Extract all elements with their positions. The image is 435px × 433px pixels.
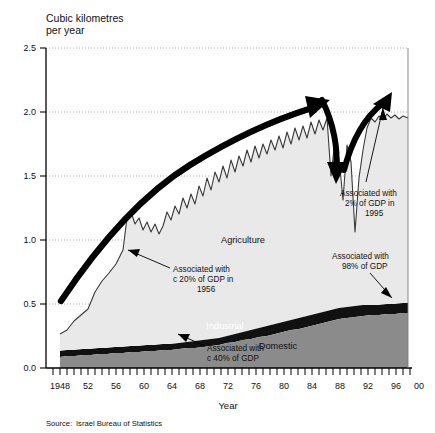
y-tick-label-2-0: 2.0 [23,107,36,117]
y-tick-label-1-5: 1.5 [23,171,36,181]
x-tick-label-52: 52 [83,381,93,391]
chart-title-line1: Cubic kilometres [46,12,124,24]
x-tick-label-84: 84 [307,381,317,391]
annotation-gdp-2-line2: 2% of GDP in [345,199,395,208]
x-tick-label-68: 68 [195,381,205,391]
x-tick-label-80: 80 [279,381,289,391]
source-value: Israel Bureau of Statistics [76,419,162,428]
x-tick-label-1948: 1948 [50,381,70,391]
x-tick-label-00: 00 [414,381,424,391]
series-label-domestic: Domestic [259,341,298,351]
x-tick-label-60: 60 [139,381,149,391]
y-tick-label-2-5: 2.5 [23,43,36,53]
annotation-gdp-20-line2: c 20% of GDP in [173,275,234,284]
annotation-gdp-20-line3: 1956 [197,285,216,294]
x-tick-label-88: 88 [335,381,345,391]
y-tick-label-0-0: 0.0 [23,363,36,373]
series-label-agriculture: Agriculture [221,235,265,245]
source-label: Source: [46,419,72,428]
annotation-gdp-98-line1: Associated with [332,252,389,261]
water-use-chart: Cubic kilometres per year 2.5 2.0 1.5 1. [0,0,435,433]
annotation-gdp-20-line1: Associated with [173,265,230,274]
annotation-gdp-98-line2: 98% of GDP [342,262,388,271]
x-tick-label-76: 76 [251,381,261,391]
annotation-gdp-2-line3: 1995 [365,209,384,218]
x-tick-label-96: 96 [391,381,401,391]
y-tick-label-0-5: 0.5 [23,299,36,309]
x-tick-label-92: 92 [363,381,373,391]
x-axis-title: Year [218,400,237,411]
annotation-gdp-40-line1: Associated with [207,344,264,353]
x-tick-label-56: 56 [111,381,121,391]
annotation-gdp-2-line1: Associated with [340,189,397,198]
y-tick-label-1-0: 1.0 [23,235,36,245]
x-tick-label-72: 72 [223,381,233,391]
series-label-industrial: Industrial [206,321,243,331]
chart-svg: Cubic kilometres per year 2.5 2.0 1.5 1. [0,0,435,433]
x-tick-label-64: 64 [167,381,177,391]
chart-title-line2: per year [46,24,85,36]
annotation-gdp-40-line2: c 40% of GDP [207,354,259,363]
